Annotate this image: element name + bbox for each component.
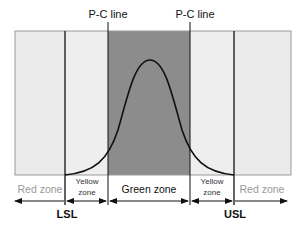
usl-label: USL [224, 208, 246, 220]
pc-line-right-label: P-C line [175, 8, 214, 20]
red-zone-right-label: Red zone [240, 183, 285, 195]
pre-control-chart: P-C line P-C line Red zone Yellow zone G… [0, 0, 307, 229]
red-zone-left-label: Red zone [18, 183, 63, 195]
yellow-zone-left-label-line1: Yellow [76, 177, 99, 186]
green-zone-area [108, 31, 190, 175]
yellow-zone-right-label-line1: Yellow [201, 177, 224, 186]
pc-line-left-label: P-C line [88, 8, 127, 20]
red-zone-left-area [15, 31, 65, 175]
red-zone-right-area [234, 31, 291, 175]
lsl-label: LSL [57, 208, 78, 220]
yellow-zone-right-area [190, 31, 234, 175]
yellow-zone-right-label-line2: zone [203, 188, 221, 197]
yellow-zone-left-area [65, 31, 108, 175]
green-zone-label: Green zone [122, 183, 177, 195]
yellow-zone-left-label-line2: zone [78, 188, 96, 197]
